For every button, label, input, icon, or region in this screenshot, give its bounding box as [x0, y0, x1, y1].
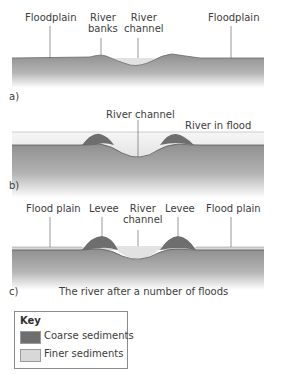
finer-sediments-swatch: [20, 349, 41, 362]
coarse-sediments-swatch: [20, 331, 41, 344]
cross-section-a: [0, 0, 282, 90]
panel-id-b: b): [9, 180, 19, 191]
finer-sediments-label: Finer sediments: [44, 348, 123, 359]
key-title: Key: [20, 315, 41, 326]
label-river-channel-b: River channel: [106, 109, 175, 120]
panel-c-caption: The river after a number of floods: [59, 286, 228, 297]
legend-key: Key Coarse sediments Finer sediments: [14, 311, 128, 369]
cross-section-c: [0, 212, 282, 292]
coarse-sediments-label: Coarse sediments: [44, 330, 134, 341]
panel-id-c: c): [9, 286, 18, 297]
cross-section-b: [0, 120, 282, 200]
panel-id-a: a): [9, 91, 19, 102]
